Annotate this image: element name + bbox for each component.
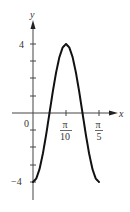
y-tick-label-4: 4: [19, 39, 24, 50]
x-tick-label-pi-over-5-den: 5: [97, 131, 102, 142]
x-axis-arrow-icon: [109, 111, 118, 116]
function-graph: y x 4 −4 0 π 10 π 5: [0, 0, 130, 212]
y-axis-label: y: [29, 9, 35, 20]
y-tick-label-neg4: −4: [11, 176, 22, 187]
x-tick-label-pi-over-5-num: π: [96, 119, 101, 130]
x-axis-label: x: [118, 108, 124, 119]
x-tick-label-pi-over-10-den: 10: [60, 131, 70, 142]
x-tick-label-pi-over-10-num: π: [63, 119, 68, 130]
y-axis-arrow-icon: [31, 20, 36, 29]
origin-label: 0: [24, 118, 29, 129]
